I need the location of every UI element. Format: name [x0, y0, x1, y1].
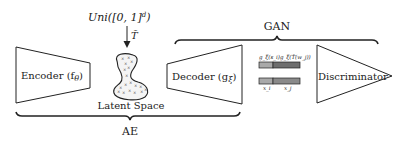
- svg-text:×: ×: [130, 59, 133, 64]
- transform-label: T̃: [131, 30, 139, 41]
- arrow-head-icon: [124, 41, 131, 48]
- generated-sample-j-bar: [273, 62, 300, 68]
- gan-ae-diagram: Uni([0, 1]d) T̃ GAN Encoder (fθ) ××× ×××…: [0, 0, 409, 143]
- ae-label: AE: [121, 125, 138, 138]
- bar-top-left-label: g_ξ(s_i): [259, 54, 280, 61]
- svg-text:×: ×: [124, 82, 127, 87]
- svg-text:×: ×: [134, 83, 137, 88]
- bar-bottom-right-label: x_j: [284, 85, 292, 92]
- real-sample-i-bar: [259, 78, 273, 84]
- bar-top-right-label: g_ξ(T̃(w_j)): [280, 53, 311, 61]
- bar-bottom-left-label: x_i: [263, 85, 271, 92]
- svg-text:×: ×: [117, 89, 120, 94]
- uniform-distribution-label: Uni([0, 1]d): [88, 11, 151, 24]
- svg-text:×: ×: [140, 89, 143, 94]
- svg-text:×: ×: [125, 73, 128, 78]
- gan-brace: [175, 36, 378, 44]
- generated-sample-i-bar: [259, 62, 273, 68]
- svg-text:×: ×: [127, 65, 130, 70]
- svg-text:×: ×: [123, 67, 126, 72]
- discriminator-label: Discriminator: [318, 71, 388, 82]
- svg-text:×: ×: [122, 90, 125, 95]
- svg-text:×: ×: [129, 80, 132, 85]
- svg-text:×: ×: [128, 88, 131, 93]
- svg-text:×: ×: [133, 90, 136, 95]
- gan-label: GAN: [264, 20, 291, 33]
- latent-space-label: Latent Space: [98, 100, 165, 111]
- real-sample-j-bar: [273, 78, 300, 84]
- ae-brace: [16, 112, 240, 120]
- svg-text:×: ×: [144, 87, 147, 92]
